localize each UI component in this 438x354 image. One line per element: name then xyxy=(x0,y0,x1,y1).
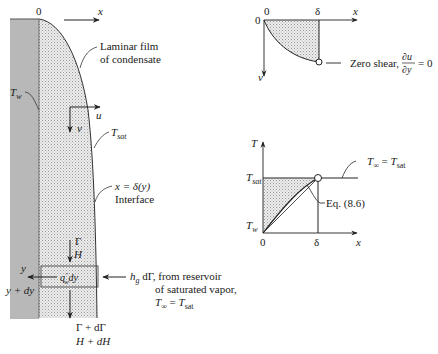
vp-delta-label: δ xyxy=(315,5,320,17)
derivative-eq: = 0 xyxy=(418,57,433,69)
interface-leader xyxy=(95,186,112,202)
x-axis-label: x xyxy=(97,5,103,17)
interface-label: Interface xyxy=(115,193,154,205)
zero-shear-point xyxy=(316,59,322,65)
gamma-out-label: Γ + dΓ xyxy=(76,321,106,333)
h-out-label: H + dH xyxy=(75,335,111,347)
interface-eq: x = δ(y) xyxy=(114,180,150,193)
vp-v-label: v xyxy=(258,71,263,83)
velocity-shaded-region xyxy=(264,20,319,62)
film-label-line1: Laminar film xyxy=(100,40,159,52)
vapor-line2: of saturated vapor, xyxy=(155,283,237,295)
tp-delta-label: δ xyxy=(314,236,319,248)
vp-origin-y: 0 xyxy=(255,14,261,26)
sat-temp-leader xyxy=(94,132,109,148)
main-figure: 0 x Laminar film of condensate Tw u v Ts… xyxy=(5,5,237,347)
zero-shear-label: Zero shear, xyxy=(350,57,399,69)
temperature-profile: T Tsat Tw 0 δ x T∞ = Tsat Eq. (8.6) xyxy=(246,137,406,248)
tp-t-sat-label: Tsat xyxy=(246,171,262,186)
film-leader-line xyxy=(80,47,97,68)
eq-ref-leader xyxy=(307,185,325,203)
derivative-den: ∂y xyxy=(402,64,412,75)
eq-ref-label: Eq. (8.6) xyxy=(326,197,365,210)
sat-temp-label: Tsat xyxy=(111,126,127,141)
y-dy-label: y + dy xyxy=(5,284,34,296)
tp-t-label: T xyxy=(251,137,258,149)
vapor-line3: T∞ = Tsat xyxy=(155,296,194,311)
t-inf-eq: T∞ = Tsat xyxy=(367,155,406,170)
y-label: y xyxy=(20,262,26,274)
origin-label: 0 xyxy=(36,5,42,17)
u-label: u xyxy=(96,109,102,121)
condensation-diagram: 0 x Laminar film of condensate Tw u v Ts… xyxy=(0,0,438,354)
derivative-num: ∂u xyxy=(402,51,412,62)
tp-origin-label: 0 xyxy=(260,236,266,248)
vp-x-label: x xyxy=(352,5,358,17)
tp-t-w-label: Tw xyxy=(246,219,258,234)
t-inf-leader xyxy=(342,161,356,178)
vp-origin-x: 0 xyxy=(264,5,270,17)
v-label: v xyxy=(77,122,82,134)
gamma-label: Γ xyxy=(75,235,81,247)
tp-x-label: x xyxy=(355,236,361,248)
velocity-profile: 0 0 δ x v Zero shear, ∂u ∂y = 0 xyxy=(255,5,433,83)
h-label: H xyxy=(73,248,83,260)
wall xyxy=(10,19,39,319)
film-label-line2: of condensate xyxy=(100,53,161,65)
interface-point xyxy=(315,175,322,182)
